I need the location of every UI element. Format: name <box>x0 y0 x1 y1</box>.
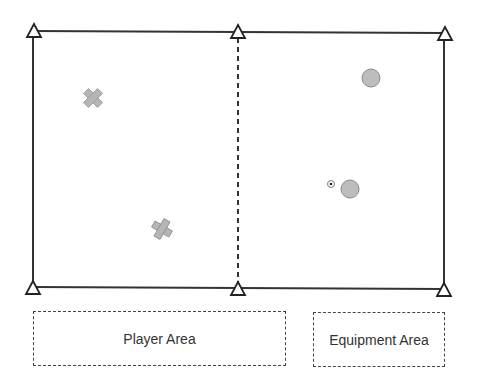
equipment-area-box: Equipment Area <box>313 312 445 367</box>
soccer-ball-icon <box>328 181 335 188</box>
player-cross-icon <box>79 84 107 112</box>
player-area-label: Player Area <box>123 331 195 347</box>
disc-marker-icon <box>362 69 380 87</box>
player-cross-icon <box>148 215 175 242</box>
disc-marker-icon <box>341 180 359 198</box>
equipment-area-label: Equipment Area <box>329 332 429 348</box>
player-area-box: Player Area <box>33 311 286 366</box>
